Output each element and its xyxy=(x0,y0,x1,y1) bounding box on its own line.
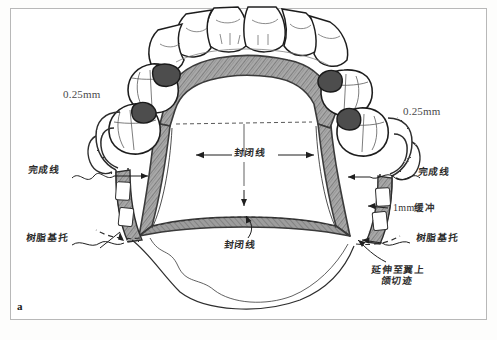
label-relief-right: 1mm缓冲 xyxy=(393,202,436,214)
label-extend-to-pterygomaxillary-notch: 延伸至翼上颌切迹 xyxy=(370,265,425,287)
label-seal-line-lower: 封闭线 xyxy=(223,240,256,251)
label-resin-base-left: 树脂基托 xyxy=(25,233,69,244)
relief-unit-text: 缓冲 xyxy=(414,202,435,213)
relief-value: 1mm xyxy=(393,202,414,213)
label-finish-line-left: 完成线 xyxy=(27,165,60,176)
figure-panel: 0.25mm 0.25mm 完成线 完成线 1mm缓冲 树脂基托 树脂基托 封闭… xyxy=(0,0,497,340)
label-thickness-left: 0.25mm xyxy=(63,88,101,101)
label-seal-line-upper: 封闭线 xyxy=(233,148,266,159)
figure-letter: a xyxy=(17,300,23,312)
extend-notch-line-2: 颌切迹 xyxy=(381,275,414,286)
label-resin-base-right: 树脂基托 xyxy=(415,233,459,244)
label-finish-line-right: 完成线 xyxy=(417,167,450,178)
extend-notch-line-1: 延伸至翼上 xyxy=(371,264,425,275)
label-thickness-right: 0.25mm xyxy=(403,105,441,118)
right-retention-lattice xyxy=(366,142,420,244)
